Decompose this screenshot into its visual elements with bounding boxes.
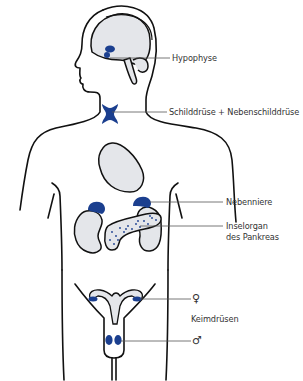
testes [105,335,121,345]
label-inselorgan-2: des Pankreas [226,232,279,242]
thyroid-gland [102,104,118,124]
body-illustration [0,0,303,381]
label-keimdruesen: Keimdrüsen [191,314,239,324]
left-kidney [74,211,102,253]
right-adrenal [133,197,151,208]
label-inselorgan-1: Inselorgan [226,221,268,231]
endocrine-diagram: Hypophyse Schilddrüse + Nebenschilddrüse… [0,0,303,381]
label-hypophyse: Hypophyse [172,53,217,63]
liver-organ [99,143,144,192]
brain [91,14,152,84]
label-nebenniere: Nebenniere [226,197,272,207]
female-symbol-icon: ♀ [192,293,200,304]
male-symbol-icon: ♂ [192,335,202,346]
label-schilddruese: Schilddrüse + Nebenschilddrüse [169,107,299,117]
